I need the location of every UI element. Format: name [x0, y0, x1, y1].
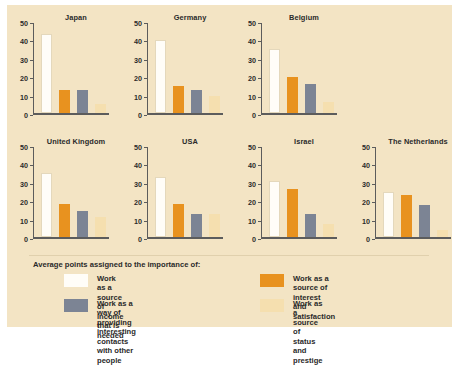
legend-label: Work as a source of status and prestige — [293, 299, 323, 366]
y-tick-label: 0 — [138, 235, 142, 244]
x-axis — [147, 113, 223, 115]
y-tick — [30, 41, 33, 42]
panel-japan: Japan01020304050 — [7, 11, 115, 129]
x-axis — [261, 113, 337, 115]
y-tick-label: 50 — [134, 143, 142, 152]
x-axis — [375, 237, 451, 239]
y-tick — [144, 23, 147, 24]
y-axis — [147, 147, 148, 239]
y-tick-label: 30 — [20, 179, 28, 188]
y-tick — [30, 147, 33, 148]
y-axis — [33, 147, 34, 239]
y-tick — [258, 23, 261, 24]
y-tick-label: 40 — [248, 161, 256, 170]
y-tick-label: 20 — [20, 74, 28, 83]
y-axis — [33, 23, 34, 115]
y-tick-label: 40 — [362, 161, 370, 170]
panel-germany: Germany01020304050 — [121, 11, 229, 129]
y-tick-label: 50 — [248, 19, 256, 28]
y-tick — [258, 115, 261, 116]
panel-united-kingdom: United Kingdom01020304050 — [7, 135, 115, 253]
y-tick-label: 10 — [134, 216, 142, 225]
bar-0 — [269, 49, 280, 113]
y-tick-label: 10 — [134, 92, 142, 101]
plot-area: 01020304050 — [261, 23, 337, 115]
y-tick — [372, 184, 375, 185]
bar-group — [267, 21, 337, 113]
bar-2 — [419, 205, 430, 237]
bar-3 — [437, 230, 448, 237]
plot-area: 01020304050 — [33, 147, 109, 239]
bar-2 — [191, 214, 202, 238]
y-tick-label: 10 — [362, 216, 370, 225]
panel-belgium: Belgium01020304050 — [235, 11, 343, 129]
plot-area: 01020304050 — [375, 147, 451, 239]
y-tick-label: 50 — [134, 19, 142, 28]
bar-group — [153, 145, 223, 237]
y-tick — [144, 60, 147, 61]
bar-0 — [269, 181, 280, 237]
bar-0 — [155, 40, 166, 114]
bar-3 — [95, 217, 106, 237]
legend-swatch-pale-icon — [260, 299, 284, 312]
bar-group — [39, 21, 109, 113]
y-tick-label: 40 — [20, 37, 28, 46]
plot-area: 01020304050 — [147, 23, 223, 115]
y-tick-label: 10 — [248, 92, 256, 101]
y-axis — [261, 23, 262, 115]
legend-swatch-white-icon — [64, 274, 88, 287]
y-tick-label: 30 — [362, 179, 370, 188]
y-tick — [258, 239, 261, 240]
y-tick — [30, 165, 33, 166]
bar-1 — [173, 86, 184, 114]
y-tick — [144, 239, 147, 240]
y-tick-label: 0 — [24, 235, 28, 244]
bar-3 — [323, 224, 334, 238]
bar-1 — [59, 204, 70, 237]
y-tick-label: 20 — [134, 198, 142, 207]
y-tick-label: 20 — [248, 74, 256, 83]
y-tick-label: 20 — [20, 198, 28, 207]
bar-2 — [305, 84, 316, 113]
bar-group — [39, 145, 109, 237]
bar-3 — [209, 214, 220, 238]
y-tick-label: 10 — [248, 216, 256, 225]
legend-swatch-gray-icon — [64, 299, 88, 312]
y-tick — [372, 165, 375, 166]
panel-usa: USA01020304050 — [121, 135, 229, 253]
small-multiples-grid: Japan01020304050Germany01020304050Belgiu… — [7, 5, 452, 255]
y-tick-label: 10 — [20, 92, 28, 101]
legend-title: Average points assigned to the importanc… — [33, 260, 200, 269]
bar-0 — [41, 173, 52, 237]
y-tick — [30, 184, 33, 185]
legend-divider — [29, 255, 429, 256]
y-tick — [30, 115, 33, 116]
y-tick-label: 50 — [20, 19, 28, 28]
y-tick — [144, 165, 147, 166]
bar-3 — [323, 102, 334, 113]
bar-1 — [173, 204, 184, 237]
y-tick — [30, 97, 33, 98]
y-tick-label: 30 — [248, 55, 256, 64]
y-tick-label: 20 — [362, 198, 370, 207]
bar-2 — [305, 214, 316, 238]
x-axis — [33, 113, 109, 115]
bar-1 — [59, 90, 70, 114]
bar-2 — [77, 211, 88, 238]
bar-1 — [401, 195, 412, 237]
y-tick — [30, 239, 33, 240]
y-tick-label: 50 — [248, 143, 256, 152]
bar-2 — [77, 90, 88, 114]
y-tick — [372, 221, 375, 222]
y-tick-label: 40 — [134, 161, 142, 170]
bar-1 — [287, 189, 298, 238]
legend-label: Work as a way of providing interesting c… — [97, 299, 136, 366]
y-tick — [258, 60, 261, 61]
y-tick — [258, 202, 261, 203]
y-tick-label: 20 — [134, 74, 142, 83]
y-tick-label: 20 — [248, 198, 256, 207]
y-tick-label: 0 — [366, 235, 370, 244]
bar-group — [381, 145, 451, 237]
x-axis — [147, 237, 223, 239]
bar-3 — [209, 96, 220, 113]
